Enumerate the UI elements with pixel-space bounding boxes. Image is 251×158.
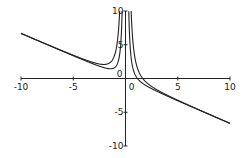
y-tick-label: 10: [112, 6, 124, 16]
y-tick-label: 0: [117, 69, 123, 79]
chart: -10-50510-10-50510: [0, 0, 251, 158]
x-tick-label: -5: [69, 82, 78, 92]
y-tick-label: 5: [118, 40, 124, 50]
x-tick-label: 0: [129, 82, 135, 92]
y-tick-label: -5: [115, 107, 124, 117]
curve-left-branch: [21, 11, 120, 64]
curve-right-branch: [131, 11, 230, 123]
x-tick-label: 5: [175, 82, 181, 92]
x-tick-label: -10: [14, 82, 29, 92]
y-tick-label: -10: [109, 141, 124, 151]
x-tick-label: 10: [224, 82, 236, 92]
axes: [21, 11, 230, 146]
curve-right-branch: [129, 11, 230, 123]
